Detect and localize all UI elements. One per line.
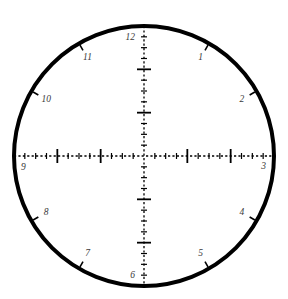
dial-svg: 121234567891011 [0, 0, 288, 299]
rim-tick-hour-5 [205, 262, 208, 267]
rim-tick-hour-8 [33, 217, 38, 220]
hour-label-1: 1 [198, 52, 203, 62]
rim-tick-hour-10 [33, 92, 38, 95]
rim-tick-hour-2 [250, 92, 255, 95]
rim-tick-hour-7 [80, 262, 83, 267]
rim-tick-hour-1 [205, 45, 208, 50]
hour-label-10: 10 [41, 94, 51, 104]
hour-label-12: 12 [126, 32, 136, 42]
hour-label-6: 6 [130, 270, 135, 280]
hour-label-5: 5 [198, 248, 203, 258]
clock-dial-figure: 121234567891011 [0, 0, 288, 299]
hour-label-8: 8 [44, 207, 49, 217]
hour-label-4: 4 [239, 207, 244, 217]
hour-label-2: 2 [239, 94, 244, 104]
hour-label-11: 11 [83, 52, 92, 62]
rim-tick-hour-11 [80, 45, 83, 50]
hour-label-7: 7 [85, 248, 91, 258]
hour-label-3: 3 [260, 161, 266, 171]
hour-label-9: 9 [21, 162, 26, 172]
rim-tick-hour-4 [250, 217, 255, 220]
